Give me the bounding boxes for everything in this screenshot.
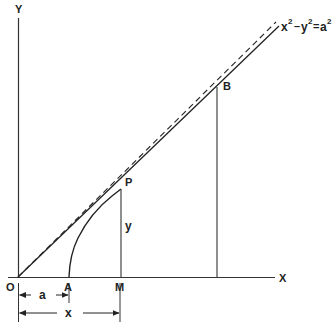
x-axis-label: X (279, 272, 287, 284)
line-op (18, 26, 279, 277)
hyperbola-diagram: Y X O A M P B y a x x 2 – y 2 = a 2 (0, 0, 332, 327)
svg-text:y: y (301, 20, 308, 34)
dim-a-label: a (39, 288, 46, 302)
point-m-label: M (115, 281, 124, 293)
origin-label: O (6, 281, 15, 293)
svg-text:x: x (281, 20, 288, 34)
svg-text:=: = (313, 20, 319, 32)
point-b-label: B (223, 80, 231, 92)
point-a-label: A (64, 281, 72, 293)
dim-x-label: x (65, 306, 72, 320)
svg-text:2: 2 (327, 17, 332, 26)
svg-text:a: a (320, 20, 327, 34)
asymptote-line (18, 22, 276, 277)
segment-y-label: y (125, 219, 132, 233)
y-axis-label: Y (15, 3, 23, 15)
point-p-label: P (125, 176, 132, 188)
svg-text:2: 2 (288, 17, 293, 26)
svg-text:–: – (294, 20, 300, 32)
curve-equation-label: x 2 – y 2 = a 2 (281, 17, 332, 34)
